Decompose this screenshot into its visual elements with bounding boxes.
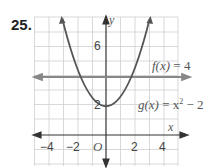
x-axis-right-arrow-icon (180, 132, 188, 138)
y-axis-label: y (108, 13, 115, 27)
f-right-arrow-icon (182, 74, 190, 80)
graph: −4 −2 2 4 2 6 O y x f(x) = 4 g(x) = x2 −… (0, 0, 224, 168)
x-tick-neg4: −4 (40, 140, 54, 154)
y-tick-6: 6 (94, 39, 101, 53)
y-axis-down-arrow-icon (103, 159, 109, 167)
x-axis-label: x (167, 120, 174, 134)
x-tick-2: 2 (131, 140, 138, 154)
g-function-label: g(x) = x2 − 2 (138, 97, 204, 112)
f-function-label: f(x) = 4 (152, 58, 191, 73)
f-left-arrow-icon (34, 74, 42, 80)
y-tick-2: 2 (94, 98, 101, 112)
x-tick-neg2: −2 (66, 140, 80, 154)
f-line (34, 74, 190, 80)
x-tick-4: 4 (159, 140, 166, 154)
origin-label: O (93, 139, 103, 154)
